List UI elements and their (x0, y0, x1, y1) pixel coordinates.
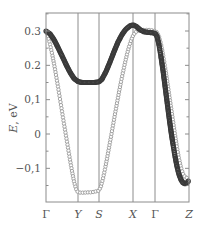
y-axis-ticks: 0.30.20,10−0,1 (16, 14, 190, 186)
x-tick-label: X (128, 208, 138, 221)
x-tick-label: Z (184, 208, 193, 221)
y-tick-label: 0 (34, 128, 41, 140)
y-tick-label: 0.2 (24, 59, 41, 71)
y-tick-label: 0.3 (24, 25, 41, 37)
x-tick-label: S (95, 208, 103, 221)
band-structure-chart: 0.30.20,10−0,1 ΓYSXΓZ E, eV (0, 0, 204, 227)
y-axis-label-symbol: E (7, 125, 20, 134)
x-tick-label: Γ (42, 208, 50, 221)
x-tick-label: Γ (151, 208, 159, 221)
y-axis-label-unit: , eV (7, 102, 20, 125)
y-axis-label: E, eV (7, 102, 20, 134)
x-axis-labels: ΓYSXΓZ (42, 208, 193, 221)
y-tick-label: 0,1 (24, 93, 41, 105)
x-tick-label: Y (74, 208, 83, 221)
y-tick-label: −0,1 (16, 162, 42, 174)
